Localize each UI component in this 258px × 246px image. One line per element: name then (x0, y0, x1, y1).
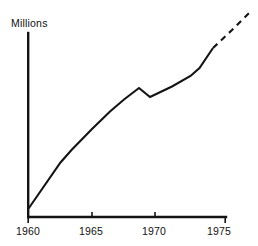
x-axis-tick-label-1970: 1970 (142, 226, 166, 237)
y-axis-label: Millions (11, 18, 48, 29)
x-axis-tick-label-1960: 1960 (16, 226, 40, 237)
series-observed-line (29, 48, 214, 209)
line-chart: Millions 1960 1965 1970 1975 (0, 0, 258, 246)
series-projected-line (213, 10, 252, 48)
x-axis-tick-label-1965: 1965 (79, 226, 103, 237)
x-axis-tick-label-1975: 1975 (207, 226, 231, 237)
chart-plot-area (0, 0, 258, 246)
